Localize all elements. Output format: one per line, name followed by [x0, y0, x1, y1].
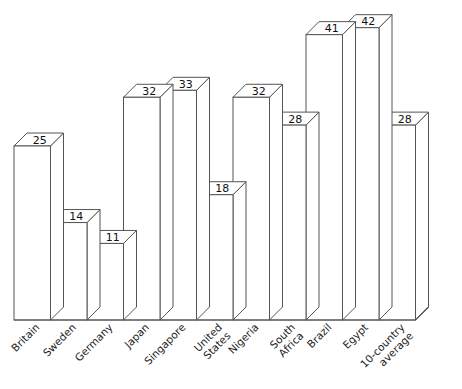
category-label-line1: Sweden — [40, 321, 78, 359]
category-label-2: Sweden — [40, 321, 78, 359]
category-label-line1: Egypt — [340, 321, 370, 351]
bar-chart: 2842412832183332111425 BritainSwedenGerm… — [0, 0, 462, 389]
category-label-4: Japan — [121, 321, 151, 351]
bar-value-label: 14 — [69, 210, 83, 223]
bar-value-label: 41 — [325, 22, 339, 35]
bar-side-face — [87, 210, 100, 320]
bar-side-face — [306, 112, 319, 320]
bar-side-face — [270, 84, 283, 320]
bar-value-label: 42 — [361, 15, 375, 28]
category-label-line1: Brazil — [304, 321, 333, 350]
bar-value-label: 28 — [288, 113, 302, 126]
bar-side-face — [160, 84, 173, 320]
chart-canvas: 2842412832183332111425 BritainSwedenGerm… — [0, 0, 462, 389]
bar-front-face — [14, 146, 51, 320]
bar-value-label: 18 — [215, 182, 229, 195]
bar-side-face — [51, 133, 64, 320]
bar-side-face — [416, 112, 429, 320]
bar-side-face — [379, 15, 392, 320]
bar-1 — [14, 133, 64, 320]
category-label-line1: Britain — [9, 321, 42, 354]
category-label-3: Germany — [72, 321, 115, 364]
bar-side-face — [197, 77, 210, 320]
category-label-10: Egypt — [340, 321, 370, 351]
category-label-8: SouthAfrica — [267, 321, 306, 360]
bar-value-label: 28 — [398, 113, 412, 126]
bar-value-label: 33 — [179, 78, 193, 91]
bar-side-face — [343, 22, 356, 320]
category-label-line1: Germany — [72, 321, 115, 364]
category-label-9: Brazil — [304, 321, 333, 350]
bar-value-label: 11 — [106, 231, 120, 244]
category-label-1: Britain — [9, 321, 42, 354]
bar-value-label: 32 — [252, 85, 266, 98]
category-labels-layer: BritainSwedenGermanyJapanSingaporeUnited… — [9, 321, 415, 378]
category-label-6: UnitedStates — [191, 321, 232, 362]
bar-value-label: 25 — [33, 134, 47, 147]
bar-side-face — [124, 230, 137, 320]
category-label-line1: Japan — [121, 321, 151, 351]
bar-value-label: 32 — [142, 85, 156, 98]
bars-layer — [14, 15, 429, 320]
bar-side-face — [233, 182, 246, 320]
